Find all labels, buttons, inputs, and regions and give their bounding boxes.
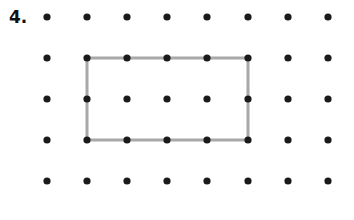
lattice-dot-r1-c2[interactable] [123, 54, 130, 61]
lattice-dot-r3-c3[interactable] [163, 136, 170, 143]
lattice-dot-r2-c1[interactable] [83, 95, 90, 102]
lattice-dot-r3-c5[interactable] [244, 136, 251, 143]
lattice-dot-r3-c0[interactable] [43, 136, 50, 143]
lattice-dot-r4-c3[interactable] [163, 177, 170, 184]
lattice-dot-r2-c2[interactable] [123, 95, 130, 102]
lattice-dot-r1-c5[interactable] [244, 54, 251, 61]
lattice-dot-r1-c0[interactable] [43, 54, 50, 61]
lattice-dot-r1-c4[interactable] [203, 54, 210, 61]
lattice-dot-r1-c1[interactable] [83, 54, 90, 61]
lattice-dot-r0-c4[interactable] [203, 13, 210, 20]
lattice-dot-r4-c7[interactable] [324, 177, 331, 184]
lattice-dot-r4-c6[interactable] [284, 177, 291, 184]
lattice-dot-r3-c4[interactable] [203, 136, 210, 143]
lattice-dot-r1-c3[interactable] [163, 54, 170, 61]
geoboard-canvas [0, 0, 354, 220]
dot-layer [43, 13, 331, 184]
lattice-dot-r2-c4[interactable] [203, 95, 210, 102]
geoboard-figure: 4. [0, 0, 354, 220]
lattice-dot-r3-c1[interactable] [83, 136, 90, 143]
lattice-dot-r0-c3[interactable] [163, 13, 170, 20]
lattice-dot-r2-c6[interactable] [284, 95, 291, 102]
lattice-dot-r0-c2[interactable] [123, 13, 130, 20]
lattice-dot-r0-c0[interactable] [43, 13, 50, 20]
lattice-dot-r4-c5[interactable] [244, 177, 251, 184]
lattice-dot-r2-c5[interactable] [244, 95, 251, 102]
lattice-dot-r4-c1[interactable] [83, 177, 90, 184]
lattice-dot-r0-c5[interactable] [244, 13, 251, 20]
lattice-dot-r4-c2[interactable] [123, 177, 130, 184]
lattice-dot-r1-c6[interactable] [284, 54, 291, 61]
lattice-dot-r3-c2[interactable] [123, 136, 130, 143]
lattice-dot-r2-c3[interactable] [163, 95, 170, 102]
lattice-dot-r0-c6[interactable] [284, 13, 291, 20]
lattice-dot-r2-c0[interactable] [43, 95, 50, 102]
lattice-dot-r1-c7[interactable] [324, 54, 331, 61]
lattice-dot-r2-c7[interactable] [324, 95, 331, 102]
lattice-dot-r0-c1[interactable] [83, 13, 90, 20]
lattice-dot-r4-c4[interactable] [203, 177, 210, 184]
dot-grid-board [0, 0, 354, 220]
lattice-dot-r3-c6[interactable] [284, 136, 291, 143]
lattice-dot-r3-c7[interactable] [324, 136, 331, 143]
lattice-dot-r0-c7[interactable] [324, 13, 331, 20]
lattice-dot-r4-c0[interactable] [43, 177, 50, 184]
